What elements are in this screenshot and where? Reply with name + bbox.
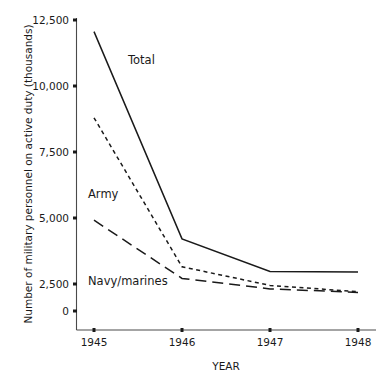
x-tick-mark-1946 [181,328,184,332]
x-tick-label-1947: 1947 [257,336,284,348]
x-tick-label-1948: 1948 [345,336,372,348]
chart-page: 12,500 10,000 7,500 5,000 2,500 0 1945 1… [0,0,387,382]
series-label-navy: Navy/marines [88,274,168,288]
x-tick-label-1946: 1946 [169,336,196,348]
y-tick-label-2500: 2,500 [39,278,69,290]
x-tick-mark-1947 [269,328,272,332]
y-tick-mark-12500 [73,19,77,22]
series-label-army: Army [88,187,119,201]
series-line-total [94,32,358,272]
y-tick-mark-0 [73,310,77,313]
y-tick-mark-10000 [73,85,77,88]
y-tick-mark-5000 [73,217,77,220]
x-tick-mark-1948 [357,328,360,332]
y-tick-label-10000: 10,000 [32,80,69,92]
y-tick-label-0: 0 [62,305,69,317]
y-tick-mark-7500 [73,151,77,154]
y-tick-label-12500: 12,500 [32,14,69,26]
y-tick-label-7500: 7,500 [39,146,69,158]
x-axis-title: YEAR [211,360,240,372]
series-label-total: Total [127,53,155,67]
y-axis-title: Number of military personnel on active d… [22,24,34,323]
line-chart: 12,500 10,000 7,500 5,000 2,500 0 1945 1… [0,0,387,382]
x-tick-mark-1945 [93,328,96,332]
y-tick-label-5000: 5,000 [39,212,69,224]
x-tick-label-1945: 1945 [81,336,108,348]
y-tick-mark-2500 [73,283,77,286]
series-line-army [94,118,358,292]
